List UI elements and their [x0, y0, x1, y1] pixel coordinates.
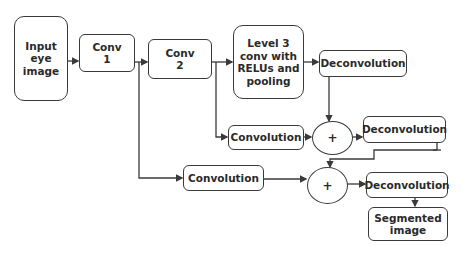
- deconvolution-low-label: Deconvolution: [364, 179, 449, 192]
- level3-conv-label: Level 3 conv with RELUs and pooling: [237, 37, 299, 87]
- deconvolution-low-node: Deconvolution: [366, 172, 448, 198]
- conv2-label: Conv 2: [165, 47, 194, 72]
- convolution-low-node: Convolution: [183, 165, 264, 191]
- segmented-image-node: Segmented image: [368, 207, 448, 241]
- sum-mid-node: +: [312, 121, 353, 155]
- conv2-node: Conv 2: [148, 39, 212, 79]
- plus-icon: +: [327, 131, 337, 145]
- sum-low-node: +: [307, 167, 348, 204]
- deconvolution-mid-node: Deconvolution: [363, 116, 446, 143]
- input-eye-image-label: Input eye image: [23, 40, 59, 78]
- segmented-image-label: Segmented image: [374, 212, 441, 237]
- deconvolution-top-label: Deconvolution: [320, 57, 405, 70]
- input-eye-image-node: Input eye image: [14, 16, 68, 101]
- conv1-label: Conv 1: [92, 41, 121, 66]
- convolution-mid-label: Convolution: [231, 131, 302, 144]
- convolution-mid-node: Convolution: [228, 125, 304, 150]
- plus-icon: +: [322, 179, 332, 193]
- deconvolution-mid-label: Deconvolution: [362, 123, 447, 136]
- conv1-node: Conv 1: [79, 34, 135, 72]
- convolution-low-label: Convolution: [188, 172, 259, 185]
- deconvolution-top-node: Deconvolution: [319, 50, 407, 77]
- level3-conv-node: Level 3 conv with RELUs and pooling: [233, 25, 304, 99]
